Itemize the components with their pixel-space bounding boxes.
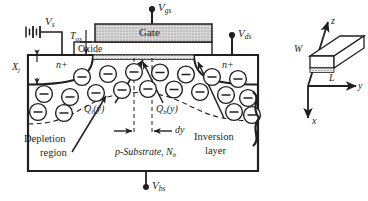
depletion-region-label-line1: Depletion bbox=[24, 134, 65, 145]
dy-label: dy bbox=[175, 125, 184, 135]
axis-x-label: x bbox=[312, 116, 316, 126]
gate-label: Gate bbox=[139, 27, 160, 38]
source-region-label: n+ bbox=[56, 60, 68, 70]
source-terminal-wiring bbox=[26, 26, 62, 55]
oxide-label: Oxide bbox=[78, 44, 102, 54]
gate-voltage-label: Vgs bbox=[158, 2, 171, 13]
inversion-charge-label: Qi(y) bbox=[84, 104, 104, 114]
gate-terminal-wiring bbox=[149, 6, 155, 24]
depletion-region-label-line2: region bbox=[40, 148, 67, 159]
mosfet-diagram-figure: Vs Vgs Vds Vbs Tox Xj Gate Oxide n+ n+ p… bbox=[0, 0, 368, 201]
drain-region-label: n+ bbox=[222, 60, 234, 70]
inversion-layer-strip bbox=[93, 55, 194, 60]
bulk-charge-label: Qb(y) bbox=[156, 104, 178, 114]
drain-voltage-label: Vds bbox=[238, 28, 251, 39]
substrate-label: p-Substrate, Nb bbox=[115, 147, 176, 157]
diagram-canvas bbox=[0, 0, 368, 201]
bulk-voltage-label: Vbs bbox=[152, 180, 165, 191]
width-label: W bbox=[294, 44, 302, 54]
length-label: L bbox=[329, 73, 335, 83]
inversion-layer-label-line1: Inversion bbox=[194, 132, 234, 143]
oxide-thickness-label: Tox bbox=[70, 31, 82, 41]
bulk-terminal-wiring bbox=[143, 171, 149, 190]
source-voltage-label: Vs bbox=[45, 16, 55, 27]
axis-z-label: z bbox=[331, 16, 335, 26]
drain-terminal-wiring bbox=[229, 32, 235, 55]
axis-y-label: y bbox=[358, 81, 362, 91]
junction-depth-label: Xj bbox=[12, 62, 20, 72]
inversion-layer-label-line2: layer bbox=[205, 146, 226, 157]
axes-3d-diagram bbox=[308, 22, 364, 118]
